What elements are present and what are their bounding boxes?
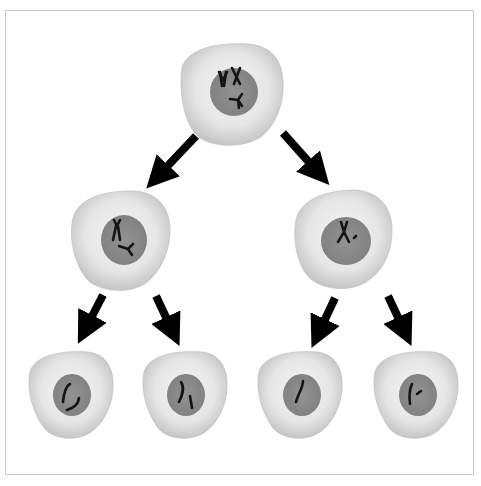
arrow-daughter-left-to-gamete-1 xyxy=(87,295,103,326)
cell-parent xyxy=(181,44,283,146)
arrow-parent-to-daughter-right xyxy=(283,133,316,170)
arrow-daughter-left-to-gamete-2 xyxy=(156,296,171,328)
nucleus xyxy=(210,68,258,116)
cell-division-diagram xyxy=(0,0,481,486)
cell-gamete-4 xyxy=(374,352,458,439)
nucleus xyxy=(399,374,437,416)
arrow-daughter-right-to-gamete-4 xyxy=(388,296,403,328)
nucleus xyxy=(101,215,147,265)
cell-daughter-left xyxy=(72,191,170,290)
cell-daughter-right xyxy=(295,190,392,289)
nucleus xyxy=(167,374,205,416)
cell-gamete-3 xyxy=(258,352,342,439)
cell-gamete-2 xyxy=(143,352,227,439)
nucleus xyxy=(53,374,91,416)
cell-gamete-1 xyxy=(29,352,113,439)
arrow-daughter-right-to-gamete-3 xyxy=(320,298,335,330)
arrow-parent-to-daughter-left xyxy=(160,136,196,174)
